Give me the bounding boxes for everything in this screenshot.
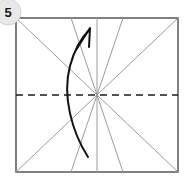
- step-badge-label: 5: [4, 5, 11, 20]
- diagram-canvas: 5: [0, 0, 186, 181]
- origami-diagram-figure: 5: [0, 0, 186, 181]
